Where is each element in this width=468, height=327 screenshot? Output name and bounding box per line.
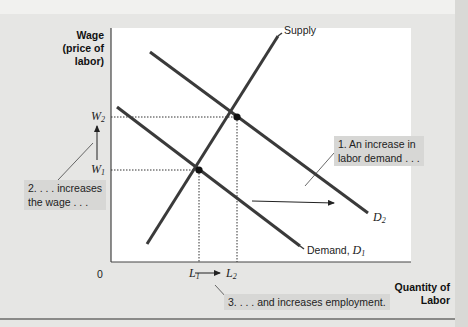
callout-2-line-1: 2. . . . increases (28, 181, 102, 195)
callout-1-line-2: labor demand . . . (338, 151, 420, 165)
callout-1-line-1: 1. An increase in (338, 137, 420, 151)
y-axis-title-line-3: labor) (46, 55, 104, 68)
supply-label-pointer (278, 33, 282, 36)
demand-d2-label: D2 (373, 210, 386, 225)
y-axis-title-line-2: (price of (46, 42, 104, 55)
tick-w2: W2 (91, 109, 105, 124)
tick-l2: L2 (226, 266, 237, 281)
callout-employment-increase: 3. . . . and increases employment. (224, 294, 390, 310)
tick-l1: L1 (189, 266, 200, 281)
tick-w1: W1 (91, 162, 105, 177)
demand-d1-label: Demand, D1 (307, 243, 365, 258)
callout-wage-increase: 2. . . . increases the wage . . . (24, 180, 106, 210)
y-axis-title: Wage (price of labor) (46, 29, 104, 68)
x-axis-title-line-1: Quantity of (370, 281, 450, 294)
d1-label-pointer (300, 246, 304, 249)
y-axis-title-line-1: Wage (46, 29, 104, 42)
callout-2-leader (58, 143, 93, 180)
callout-demand-increase: 1. An increase in labor demand . . . (334, 136, 424, 166)
supply-label: Supply (284, 24, 316, 36)
callout-2-line-2: the wage . . . (28, 195, 102, 209)
equilibrium-point-1 (195, 166, 202, 173)
equilibrium-point-2 (233, 113, 240, 120)
demand-curve-d1 (117, 107, 300, 246)
demand-shift-arrow (252, 201, 334, 203)
origin-label: 0 (97, 268, 103, 280)
